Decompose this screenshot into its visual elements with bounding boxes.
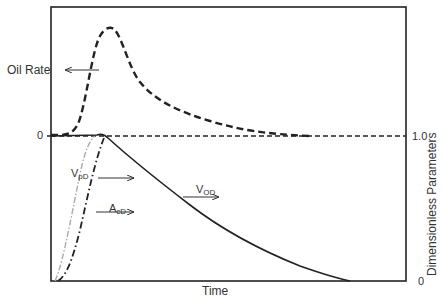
acd-label: AcD — [109, 203, 126, 216]
vpd-label-sub: pD — [78, 172, 88, 181]
vpd-label: VpD — [71, 168, 89, 181]
vpd-curve — [55, 136, 95, 281]
right-zero-label: 0 — [418, 276, 424, 287]
acd-curve — [58, 138, 104, 281]
dimensionless-label: Dimensionless Parameters — [425, 133, 439, 276]
acd-label-sub: cD — [116, 207, 126, 216]
vod-label: VOD — [196, 184, 215, 197]
oil-rate-label: Oil Rate — [7, 64, 50, 76]
vod-label-sub: OD — [203, 188, 215, 197]
time-label: Time — [202, 285, 228, 297]
vod-curve — [51, 134, 350, 281]
plot-frame — [51, 7, 406, 281]
oil-rate-curve — [51, 28, 310, 136]
chart-canvas — [0, 0, 444, 300]
left-zero-label: 0 — [37, 130, 43, 141]
